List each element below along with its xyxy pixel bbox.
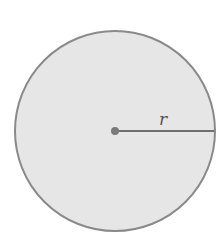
center-point	[111, 127, 119, 135]
circle-diagram: r	[0, 0, 224, 243]
radius-label: r	[159, 109, 168, 129]
